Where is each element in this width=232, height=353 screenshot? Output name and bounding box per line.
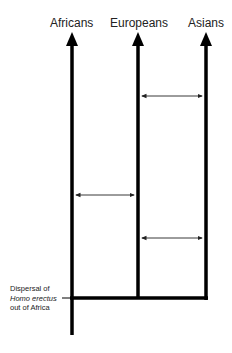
dispersal-annotation: Dispersal of Homo erectus out of Africa [10, 284, 57, 313]
lineage-africans [66, 32, 78, 335]
annotation-line-3: out of Africa [10, 303, 57, 313]
annotation-line-1: Dispersal of [10, 284, 57, 294]
lineage-asians [200, 32, 212, 300]
annotation-line-2: Homo erectus [10, 294, 57, 304]
lineage-europeans [132, 32, 144, 298]
